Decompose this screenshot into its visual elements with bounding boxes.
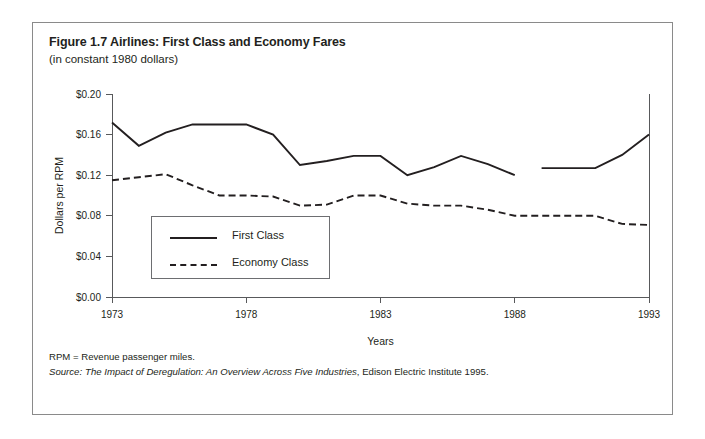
source-label: Source: bbox=[49, 366, 82, 377]
chart-legend: First Class Economy Class bbox=[151, 216, 330, 279]
legend-item-first-class: First Class bbox=[152, 228, 329, 250]
y-tick-label: $0.12 bbox=[76, 170, 101, 181]
y-tick-label: $0.08 bbox=[76, 210, 101, 221]
legend-label-first-class: First Class bbox=[232, 229, 284, 241]
series-first-class bbox=[542, 135, 649, 168]
x-tick-label: 1973 bbox=[101, 309, 124, 320]
source-title: The Impact of Deregulation: An Overview … bbox=[85, 366, 357, 377]
y-tick-label: $0.04 bbox=[76, 251, 101, 262]
legend-label-economy-class: Economy Class bbox=[232, 256, 308, 268]
note-rpm: RPM = Revenue passenger miles. bbox=[49, 349, 649, 364]
x-tick-label: 1983 bbox=[369, 309, 392, 320]
y-tick-label: $0.00 bbox=[76, 292, 101, 303]
x-axis-title: Years bbox=[367, 335, 393, 347]
series-first-class bbox=[112, 122, 515, 175]
legend-swatch-economy-class bbox=[170, 264, 217, 266]
note-source: Source:The Impact of Deregulation: An Ov… bbox=[49, 364, 649, 379]
x-tick-label: 1993 bbox=[638, 309, 661, 320]
x-tick-label: 1988 bbox=[504, 309, 527, 320]
figure-frame: Figure 1.7 Airlines: First Class and Eco… bbox=[32, 22, 673, 415]
y-tick-label: $0.16 bbox=[76, 129, 101, 140]
x-tick-label: 1978 bbox=[235, 309, 258, 320]
legend-swatch-first-class bbox=[170, 237, 217, 239]
y-tick-label: $0.20 bbox=[76, 89, 101, 100]
source-publisher: , Edison Electric Institute 1995. bbox=[357, 366, 489, 377]
y-axis-title: Dollars per RPM bbox=[53, 157, 65, 234]
legend-item-economy-class: Economy Class bbox=[152, 255, 329, 277]
figure-notes: RPM = Revenue passenger miles. Source:Th… bbox=[49, 349, 649, 379]
